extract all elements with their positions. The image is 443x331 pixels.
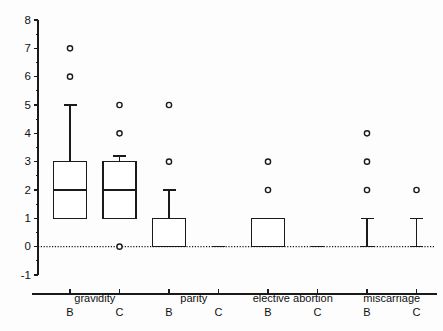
outlier-point: [265, 187, 270, 192]
outlier-point: [364, 187, 369, 192]
y-axis-tick-label: -1: [21, 269, 31, 281]
y-axis-tick-label: 3: [25, 155, 31, 167]
x-axis-sublabel-b-2: B: [165, 306, 172, 318]
box-body: [252, 218, 285, 246]
y-axis-tick-label: 1: [25, 212, 31, 224]
x-axis-group-label-parity: parity: [180, 292, 207, 304]
x-axis-sublabel-b-6: B: [363, 306, 370, 318]
y-axis-tick-label: 0: [25, 240, 31, 252]
box-group-gravidity-C: [103, 102, 136, 249]
box-group-elective-abortion-B: [252, 159, 285, 247]
outlier-point: [117, 244, 122, 249]
box-group-parity-B: [153, 102, 186, 246]
x-axis-sublabel-c-1: C: [116, 306, 124, 318]
boxplot-figure: 876543210-1 BCBCBCBCgravidityparityelect…: [0, 0, 443, 331]
y-axis-tick-label: 4: [25, 127, 32, 139]
y-axis-tick-label: 6: [25, 70, 31, 82]
x-axis-group-label-elective-abortion: elective abortion: [253, 292, 333, 304]
box-group-gravidity-B: [54, 46, 87, 219]
box-group-miscarriage-C: [410, 187, 423, 246]
x-axis-sublabel-c-3: C: [215, 306, 223, 318]
y-axis-tick-label: 5: [25, 99, 31, 111]
x-axis-group-label-miscarriage: miscarriage: [363, 292, 420, 304]
outlier-point: [117, 102, 122, 107]
outlier-point: [67, 74, 72, 79]
outlier-point: [265, 159, 270, 164]
y-axis-tick-label: 8: [25, 14, 31, 26]
y-axis-tick-label: 2: [25, 184, 31, 196]
box-body: [153, 218, 186, 246]
outlier-point: [166, 102, 171, 107]
y-axis-tick-label: 7: [25, 42, 31, 54]
boxplot-canvas: 876543210-1 BCBCBCBCgravidityparityelect…: [0, 0, 443, 331]
outlier-point: [364, 131, 369, 136]
x-axis-sublabel-b-0: B: [66, 306, 73, 318]
outlier-point: [117, 131, 122, 136]
box-series-layer: [54, 46, 424, 250]
x-axis-sublabel-c-7: C: [413, 306, 421, 318]
x-axis-sublabel-c-5: C: [314, 306, 322, 318]
axis-layer: 876543210-1: [21, 14, 437, 294]
box-group-miscarriage-B: [361, 131, 374, 247]
outlier-point: [67, 46, 72, 51]
x-axis-sublabel-b-4: B: [264, 306, 271, 318]
outlier-point: [166, 159, 171, 164]
outlier-point: [414, 187, 419, 192]
outlier-point: [364, 159, 369, 164]
x-axis-group-label-gravidity: gravidity: [74, 292, 115, 304]
